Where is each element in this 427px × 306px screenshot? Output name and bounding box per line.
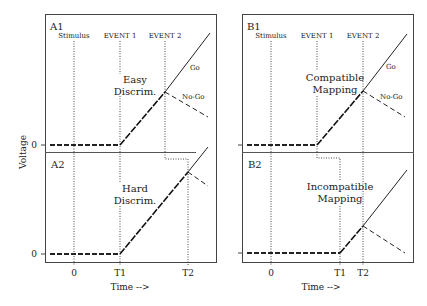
x-axis-label: Time --> xyxy=(110,282,149,292)
time-tick-0: 0 xyxy=(71,268,77,278)
time-tick-t1: T1 xyxy=(114,268,126,278)
a1-nogo-label: No-Go xyxy=(182,93,205,101)
event-label-event2: EVENT 2 xyxy=(347,32,380,40)
y-tick-label-zero: 0 xyxy=(31,249,37,259)
b1-nogo-label: No-Go xyxy=(380,93,403,101)
time-tick-0: 0 xyxy=(268,268,274,278)
event-label-event1: EVENT 1 xyxy=(104,32,137,40)
event2-to-t2-connector xyxy=(165,152,188,266)
condition-label-b2-line1: Incompatible xyxy=(307,181,374,192)
condition-label-a1-line1: Easy xyxy=(123,74,147,85)
panel-b-frame xyxy=(243,15,414,263)
time-tick-t1: T1 xyxy=(334,268,346,278)
b2-ramp xyxy=(340,226,363,253)
condition-label-a2-line1: Hard xyxy=(122,183,148,194)
diagram: Voltage A1 Stimulus EVENT 1 EVENT 2 Easy… xyxy=(0,0,427,306)
y-tick-label-zero: 0 xyxy=(31,140,37,150)
a2-go-line xyxy=(188,147,208,172)
y-axis-label: Voltage xyxy=(18,135,28,170)
panel-a: A1 Stimulus EVENT 1 EVENT 2 Easy Discrim… xyxy=(31,15,216,293)
condition-label-a2-line2: Discrim. xyxy=(114,195,157,206)
b1-ramp xyxy=(317,91,363,145)
a2-nogo-line xyxy=(188,172,208,186)
event-label-event2: EVENT 2 xyxy=(149,32,182,40)
time-tick-t2: T2 xyxy=(182,268,194,278)
condition-label-b1-line1: Compatible xyxy=(306,72,364,83)
time-tick-t2: T2 xyxy=(357,268,369,278)
a1-go-label: Go xyxy=(190,64,200,72)
a1-ramp xyxy=(120,92,165,145)
b2-go-line xyxy=(363,170,407,226)
panel-a-frame xyxy=(46,15,217,263)
condition-label-b2-line2: Mapping xyxy=(317,193,363,204)
panel-label-b1: B1 xyxy=(247,21,261,32)
a1-go-line xyxy=(165,33,210,92)
condition-label-a1-line2: Discrim. xyxy=(114,86,157,97)
event-label-stimulus: Stimulus xyxy=(58,32,90,40)
event-label-stimulus: Stimulus xyxy=(255,32,287,40)
b1-go-line xyxy=(363,34,407,91)
x-axis-label: Time --> xyxy=(301,282,340,292)
event-label-event1: EVENT 1 xyxy=(301,32,334,40)
panel-label-b2: B2 xyxy=(248,159,262,170)
event1-to-t1-connector xyxy=(317,152,340,180)
panel-b: B1 Stimulus EVENT 1 EVENT 2 Compatible M… xyxy=(238,15,414,293)
panel-label-a1: A1 xyxy=(49,21,64,32)
panel-label-a2: A2 xyxy=(50,159,65,170)
b2-nogo-line xyxy=(363,226,405,253)
condition-label-b1-line2: Mapping xyxy=(312,84,358,95)
b1-go-label: Go xyxy=(386,63,396,71)
